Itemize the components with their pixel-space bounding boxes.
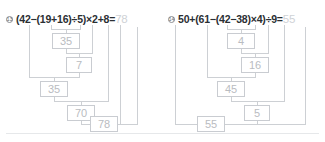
problem-number-badge: 13	[6, 16, 13, 23]
step-box-5: 78	[90, 116, 118, 132]
step-box-4: 5	[244, 105, 270, 121]
math-worksheet: 13 (42−(19+16)÷5)×2+8= 78 35 7 35 70	[0, 0, 325, 142]
final-answer: 55	[283, 13, 295, 25]
expression-text: (42−(19+16)÷5)×2+8=	[16, 13, 115, 25]
problem-13: 13 (42−(19+16)÷5)×2+8= 78 35 7 35 70	[0, 0, 163, 142]
step-box-3: 35	[40, 81, 68, 97]
expression-text: 50+(61−(42−38)×4)÷9=	[178, 13, 283, 25]
tick-5	[92, 25, 93, 54]
step-box-3: 45	[217, 81, 245, 97]
section-divider	[6, 133, 319, 134]
tick-2	[108, 25, 109, 102]
expression-row: 14 50+(61−(42−38)×4)÷9= 55	[168, 13, 295, 25]
step-box-2: 16	[241, 57, 269, 73]
expression-row: 13 (42−(19+16)÷5)×2+8= 78	[6, 13, 128, 25]
step-box-1: 4	[227, 33, 255, 49]
tick-8	[120, 25, 121, 125]
step-box-2: 7	[66, 57, 92, 73]
tick-50	[175, 25, 176, 125]
tick-42	[29, 25, 30, 78]
step-box-5: 55	[197, 116, 225, 132]
tick-61	[207, 25, 208, 78]
tick-9	[284, 25, 285, 102]
result-to-answer-v	[137, 27, 138, 125]
tick-4mult	[268, 25, 269, 54]
result-to-answer-h	[225, 124, 305, 125]
step-box-1: 35	[52, 33, 80, 49]
problem-14: 14 50+(61−(42−38)×4)÷9= 55 4 16 45 5 5	[163, 0, 325, 142]
problem-number-badge: 14	[168, 16, 175, 23]
result-to-answer-h	[118, 124, 137, 125]
final-answer: 78	[115, 13, 127, 25]
result-to-answer-v	[305, 27, 306, 125]
